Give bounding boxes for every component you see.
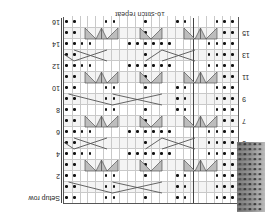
row-number-right: 2 [36, 171, 60, 182]
knit-stitch-cell [206, 27, 214, 38]
purl-stitch-cell [206, 148, 214, 159]
knit-stitch-cell [183, 71, 191, 82]
knit-stitch-cell [190, 82, 198, 93]
knit-stitch-cell [151, 71, 159, 82]
purl-stitch-cell [222, 159, 230, 170]
chart-row [64, 170, 238, 181]
purl-stitch-cell [143, 82, 151, 93]
purl-stitch-cell [159, 148, 167, 159]
knit-stitch-cell [175, 148, 183, 159]
purl-stitch-cell [64, 49, 72, 60]
knit-stitch-cell [80, 104, 88, 115]
knit-stitch-cell [103, 38, 111, 49]
knit-stitch-cell [87, 16, 95, 27]
purl-stitch-cell [214, 60, 222, 71]
purl-stitch-cell [80, 60, 88, 71]
purl-stitch-cell [159, 60, 167, 71]
row-number-right: 4 [36, 149, 60, 160]
purl-stitch-cell [64, 170, 72, 181]
knit-stitch-cell [198, 115, 206, 126]
purl-stitch-cell [183, 93, 191, 104]
knit-stitch-cell [198, 159, 206, 170]
knit-stitch-cell [135, 115, 143, 126]
knit-stitch-cell [95, 159, 103, 170]
knit-stitch-cell [103, 71, 111, 82]
purl-stitch-cell [80, 148, 88, 159]
row-number-left: 15 [242, 28, 257, 39]
knit-stitch-cell [111, 49, 119, 60]
purl-stitch-cell [222, 137, 230, 148]
purl-stitch-cell [167, 38, 175, 49]
purl-stitch-cell [111, 16, 119, 27]
purl-stitch-cell [103, 181, 111, 192]
purl-stitch-cell [214, 170, 222, 181]
knit-stitch-cell [175, 38, 183, 49]
knit-stitch-cell [190, 181, 198, 192]
knit-stitch-cell [127, 181, 135, 192]
knit-stitch-cell [127, 27, 135, 38]
knit-stitch-cell [151, 192, 159, 203]
purl-stitch-cell [214, 49, 222, 60]
purl-stitch-cell [72, 27, 80, 38]
chart-row [64, 93, 238, 104]
knit-stitch-cell [167, 82, 175, 93]
knit-stitch-cell [151, 27, 159, 38]
purl-stitch-cell [230, 16, 238, 27]
purl-stitch-cell [135, 126, 143, 137]
chart-row [64, 126, 238, 137]
purl-stitch-cell [103, 82, 111, 93]
knit-stitch-cell [198, 126, 206, 137]
knit-stitch-cell [167, 137, 175, 148]
knit-stitch-cell [95, 104, 103, 115]
knit-stitch-cell [111, 126, 119, 137]
purl-stitch-cell [214, 104, 222, 115]
purl-stitch-cell [80, 126, 88, 137]
purl-stitch-cell [222, 27, 230, 38]
knit-stitch-cell [80, 27, 88, 38]
knit-stitch-cell [135, 82, 143, 93]
purl-stitch-cell [103, 16, 111, 27]
purl-stitch-cell [111, 93, 119, 104]
purl-stitch-cell [127, 148, 135, 159]
purl-stitch-cell [175, 16, 183, 27]
knit-stitch-cell [95, 82, 103, 93]
purl-stitch-cell [72, 104, 80, 115]
knit-stitch-cell [167, 16, 175, 27]
knit-stitch-cell [111, 148, 119, 159]
knit-stitch-cell [167, 170, 175, 181]
chart-grid [63, 17, 239, 204]
knit-stitch-cell [206, 16, 214, 27]
purl-stitch-cell [222, 126, 230, 137]
purl-stitch-cell [214, 16, 222, 27]
knit-stitch-cell [151, 115, 159, 126]
knit-stitch-cell [167, 115, 175, 126]
knit-stitch-cell [183, 49, 191, 60]
purl-stitch-cell [214, 137, 222, 148]
knit-stitch-cell [190, 170, 198, 181]
knit-stitch-cell [103, 49, 111, 60]
knit-stitch-cell [135, 137, 143, 148]
purl-stitch-cell [143, 16, 151, 27]
knit-stitch-cell [87, 137, 95, 148]
purl-stitch-cell [206, 60, 214, 71]
knit-stitch-cell [167, 27, 175, 38]
chart-row [64, 148, 238, 159]
knit-stitch-cell [159, 104, 167, 115]
knit-stitch-cell [206, 170, 214, 181]
purl-stitch-cell [103, 104, 111, 115]
purl-stitch-cell [222, 181, 230, 192]
knit-stitch-cell [183, 126, 191, 137]
knit-stitch-cell [206, 93, 214, 104]
purl-stitch-cell [72, 148, 80, 159]
knit-stitch-cell [206, 159, 214, 170]
purl-stitch-cell [175, 181, 183, 192]
knit-stitch-cell [151, 16, 159, 27]
purl-stitch-cell [143, 38, 151, 49]
knit-stitch-cell [198, 27, 206, 38]
knit-stitch-cell [95, 93, 103, 104]
knit-stitch-cell [87, 159, 95, 170]
knit-stitch-cell [95, 126, 103, 137]
knit-stitch-cell [87, 49, 95, 60]
purl-stitch-cell [143, 115, 151, 126]
purl-stitch-cell [143, 192, 151, 203]
